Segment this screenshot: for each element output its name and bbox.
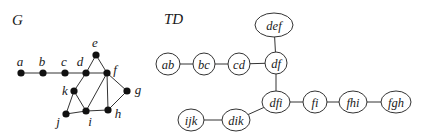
graph-vertex-f (103, 69, 110, 76)
bag-label: def (266, 19, 283, 33)
graph-title: G (12, 12, 23, 28)
td-bag-fi: fi (303, 91, 327, 113)
bag-label: fgh (388, 96, 404, 110)
vertex-label-d: d (77, 54, 84, 69)
td-bag-def: def (255, 13, 293, 37)
vertex-label-h: h (115, 106, 122, 121)
graph-vertex-g (123, 87, 130, 94)
vertex-label-i: i (88, 114, 92, 129)
vertex-label-b: b (39, 54, 46, 69)
td-bag-bc: bc (193, 53, 215, 75)
bag-label: cd (233, 58, 246, 72)
graph-vertex-b (39, 69, 46, 76)
graph-vertices: abcdefghijk (17, 35, 142, 129)
vertex-label-c: c (61, 54, 67, 69)
bag-label: fhi (346, 96, 360, 110)
graph-edge-if (86, 73, 107, 111)
td-bag-df: df (265, 52, 287, 74)
graph-edge-fg (107, 73, 127, 91)
td-bag-fgh: fgh (381, 91, 411, 113)
vertex-label-j: j (54, 114, 60, 129)
graph-vertex-d (82, 69, 89, 76)
td-bags: abbccddfdefdfififhifghdikijk (156, 13, 411, 131)
bag-label: df (271, 57, 282, 71)
vertex-label-k: k (62, 83, 68, 98)
vertex-label-f: f (113, 62, 119, 77)
tree-decomposition: TD abbccddfdefdfififhifghdikijk (156, 11, 411, 131)
bag-label: ijk (185, 114, 198, 128)
graph-vertex-e (92, 51, 99, 58)
graph-vertex-a (17, 69, 24, 76)
graph-edge-fh (107, 73, 108, 110)
td-bag-cd: cd (228, 53, 250, 75)
td-bag-ab: ab (156, 53, 180, 75)
bag-label: fi (312, 96, 319, 110)
diagram-canvas: G abcdefghijk TD abbccddfdefdfififhifghd… (0, 0, 423, 140)
bag-label: bc (198, 58, 210, 72)
vertex-label-g: g (135, 82, 142, 97)
graph-vertex-k (70, 87, 77, 94)
graph-vertex-h (104, 106, 111, 113)
vertex-label-e: e (92, 35, 98, 50)
td-bag-dik: dik (222, 109, 250, 131)
graph-g: G abcdefghijk (12, 12, 142, 129)
bag-label: dik (228, 114, 244, 128)
td-title: TD (164, 11, 183, 27)
bag-label: ab (162, 58, 175, 72)
td-bag-ijk: ijk (178, 109, 204, 131)
graph-vertex-c (61, 69, 68, 76)
vertex-label-a: a (17, 54, 24, 69)
td-bag-fhi: fhi (339, 91, 367, 113)
graph-edges (21, 55, 127, 114)
graph-vertex-j (62, 110, 69, 117)
bag-label: dfi (269, 96, 283, 110)
td-bag-dfi: dfi (262, 91, 290, 113)
